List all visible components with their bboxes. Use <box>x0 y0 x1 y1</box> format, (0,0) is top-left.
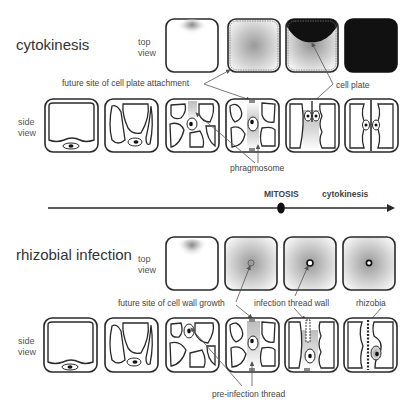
rhiz-top-view-1 <box>166 237 218 290</box>
cyto-side-view-4 <box>226 99 279 152</box>
rhiz-side-view-4 <box>226 318 279 372</box>
cyto-side-view-1 <box>45 99 98 152</box>
rhiz-side-view-2 <box>105 318 158 372</box>
wall-growth-arrow-2 <box>236 305 252 318</box>
timeline-arrow <box>48 203 395 214</box>
mitosis-marker <box>277 203 285 214</box>
cyto-top-view-3 <box>286 19 338 72</box>
rhiz-top-view-4 <box>343 237 395 290</box>
attachment-arrow-2 <box>204 84 250 100</box>
cyto-top-view-1 <box>166 19 218 72</box>
diagram-graphics <box>0 0 418 417</box>
rhiz-top-view-3 <box>284 237 336 290</box>
rhiz-side-view-1 <box>44 318 97 372</box>
rhiz-side-view-3 <box>166 318 219 372</box>
cyto-top-view-4 <box>345 19 397 72</box>
cyto-side-view-2 <box>105 99 158 152</box>
cyto-side-view-6 <box>345 99 398 152</box>
rhiz-side-view-5 <box>285 318 338 372</box>
rhiz-top-view-2 <box>225 237 277 290</box>
cyto-top-view-2 <box>228 19 280 72</box>
cyto-side-view-5 <box>286 99 339 152</box>
rhiz-side-view-6 <box>344 318 397 372</box>
